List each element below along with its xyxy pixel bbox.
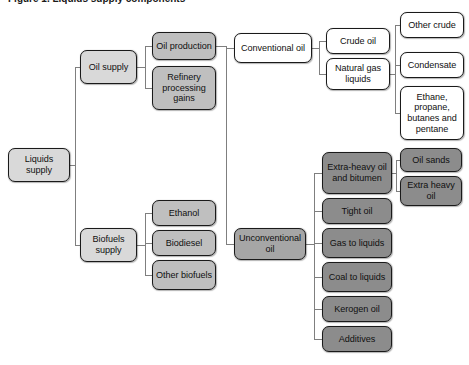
node-coal-to-liquids: Coal to liquids bbox=[322, 262, 392, 292]
node-biodiesel: Biodiesel bbox=[152, 230, 216, 256]
node-conventional-oil: Conventional oil bbox=[234, 33, 312, 63]
figure-title: Figure 1. Liquids supply components bbox=[0, 0, 469, 9]
node-ethanol: Ethanol bbox=[152, 200, 216, 226]
node-extra-heavy-oil: Extra heavy oil bbox=[400, 176, 462, 206]
node-extra-heavy-oil-and-bitumen: Extra-heavy oil and bitumen bbox=[322, 152, 392, 194]
node-oil-sands: Oil sands bbox=[400, 148, 462, 172]
node-other-biofuels: Other biofuels bbox=[152, 260, 216, 290]
node-unconventional-oil: Unconventional oil bbox=[234, 228, 306, 260]
node-tight-oil: Tight oil bbox=[322, 198, 392, 224]
node-ethane-propane-butanes-pentane: Ethane, propane, butanes and pentane bbox=[400, 86, 464, 140]
liquids-supply-diagram: Figure 1. Liquids supply components Liqu… bbox=[0, 0, 469, 365]
node-oil-production: Oil production bbox=[152, 32, 216, 60]
node-oil-supply: Oil supply bbox=[80, 50, 137, 84]
node-kerogen-oil: Kerogen oil bbox=[322, 296, 392, 322]
node-gas-to-liquids: Gas to liquids bbox=[322, 228, 392, 258]
node-crude-oil: Crude oil bbox=[326, 28, 390, 54]
node-natural-gas-liquids: Natural gas liquids bbox=[326, 58, 390, 90]
node-refinery-processing-gains: Refinery processing gains bbox=[152, 66, 216, 110]
node-biofuels-supply: Biofuels supply bbox=[80, 228, 137, 262]
node-additives: Additives bbox=[322, 326, 392, 352]
node-liquids-supply: Liquids supply bbox=[8, 148, 70, 182]
node-condensate: Condensate bbox=[400, 52, 464, 78]
node-other-crude: Other crude bbox=[400, 12, 464, 38]
